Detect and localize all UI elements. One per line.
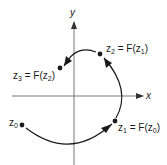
orbit-diagram: y x z0 z1 = F(z0) z2 = F(z1) z3 = F(z2) (0, 0, 167, 165)
arrowhead-z2-z3 (64, 56, 72, 66)
x-axis-label: x (146, 91, 151, 101)
arc-z0-z1 (26, 124, 112, 144)
label-z1: z1 = F(z0) (118, 123, 160, 134)
y-axis-label: y (70, 8, 75, 18)
point-z0 (20, 123, 25, 128)
label-z3: z3 = F(z2) (13, 71, 55, 82)
arc-z2-z3 (64, 50, 96, 66)
diagram-canvas (0, 0, 167, 165)
point-z2 (98, 52, 103, 57)
label-z0: z0 (9, 118, 18, 129)
label-z2: z2 = F(z1) (106, 44, 148, 55)
point-z3 (58, 66, 63, 71)
point-z1 (113, 119, 118, 124)
